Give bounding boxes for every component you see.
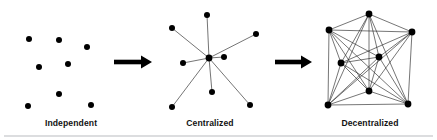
- edge-d6-d8: [369, 91, 408, 104]
- node-c8: [247, 102, 253, 108]
- node-i7: [25, 103, 31, 109]
- edge-d1-d5: [369, 14, 379, 57]
- edge-d2-d4: [329, 30, 341, 63]
- node-d6: [366, 88, 373, 95]
- edge-d3-d8: [408, 32, 412, 104]
- arrow-1-head: [141, 56, 152, 69]
- node-c3: [253, 31, 259, 37]
- panel-decentralized: Decentralized: [325, 11, 416, 128]
- arrow-1-shaft: [114, 60, 142, 65]
- node-d1: [366, 11, 373, 18]
- edge-d2-d3: [329, 30, 412, 32]
- panel-label-centralized: Centralized: [186, 118, 233, 128]
- node-c2: [169, 25, 175, 31]
- node-d2: [326, 27, 333, 34]
- edge-hub-c4: [183, 58, 209, 63]
- node-c4: [180, 60, 186, 66]
- node-c7: [169, 104, 175, 110]
- node-i3: [84, 44, 90, 50]
- node-i5: [65, 61, 71, 67]
- edge-hub-c3: [209, 34, 256, 58]
- node-i4: [36, 64, 42, 70]
- panel-independent: Independent: [25, 36, 97, 128]
- panel-centralized: Centralized: [169, 12, 259, 128]
- centralized-nodes: [169, 12, 259, 110]
- node-c6: [209, 89, 215, 95]
- edge-d4-d6: [341, 63, 369, 91]
- edge-d1-d8: [369, 14, 408, 104]
- node-d5: [376, 54, 383, 61]
- node-i6: [56, 91, 62, 97]
- hub-node: [206, 55, 213, 62]
- edge-d7-d8: [328, 104, 408, 105]
- node-c1: [204, 12, 210, 18]
- panel-label-decentralized: Decentralized: [341, 118, 398, 128]
- edge-d6-d7: [328, 91, 369, 105]
- node-d8: [405, 101, 412, 108]
- node-d3: [409, 29, 416, 36]
- edge-hub-c1: [207, 15, 209, 58]
- edge-hub-c6: [209, 58, 212, 92]
- network-topology-figure: Independent Centralized Decentralized: [0, 0, 437, 140]
- edge-hub-c7: [172, 58, 209, 107]
- node-i2: [56, 37, 62, 43]
- edge-hub-c8: [209, 58, 250, 105]
- node-i1: [26, 36, 32, 42]
- node-i8: [88, 102, 94, 108]
- independent-nodes: [25, 36, 94, 109]
- edge-d2-d5: [329, 30, 379, 57]
- edge-d2-d7: [328, 30, 329, 105]
- arrow-2-head: [301, 56, 312, 69]
- topology-diagram: Independent Centralized Decentralized: [0, 0, 437, 140]
- node-d7: [325, 102, 332, 109]
- node-d4: [338, 60, 345, 67]
- node-c5: [221, 54, 227, 60]
- panel-label-independent: Independent: [45, 118, 97, 128]
- arrow-2-shaft: [275, 60, 302, 65]
- edge-hub-c2: [172, 28, 209, 58]
